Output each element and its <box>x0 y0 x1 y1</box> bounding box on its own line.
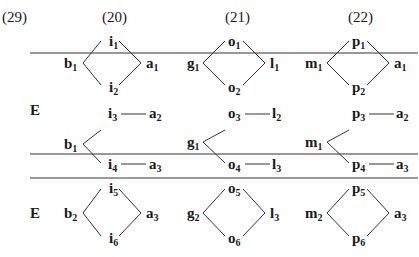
node-i2: i2 <box>109 80 118 97</box>
node-i1: i1 <box>109 34 118 51</box>
node-p6: p6 <box>352 231 365 248</box>
node-a2: a2 <box>149 106 162 123</box>
node-b2: b2 <box>64 206 77 223</box>
node-i5: i5 <box>109 181 118 198</box>
node-g1-mid: g1 <box>187 135 200 152</box>
node-a1-c3: a1 <box>394 56 407 73</box>
node-o6: o6 <box>228 231 241 248</box>
node-o3: o3 <box>228 106 241 123</box>
node-g1: g1 <box>187 56 200 73</box>
node-m2: m2 <box>305 206 323 223</box>
node-a3-c3-bot: a3 <box>394 206 407 223</box>
node-p5: p5 <box>352 181 365 198</box>
node-b1: b1 <box>64 56 77 73</box>
node-m1-mid: m1 <box>305 135 323 152</box>
column-header-22: (22) <box>348 10 373 25</box>
column-header-21: (21) <box>225 10 250 25</box>
node-l1: l1 <box>270 56 279 73</box>
node-a3-bot: a3 <box>146 206 159 223</box>
node-a1: a1 <box>146 56 159 73</box>
node-p1: p1 <box>352 34 365 51</box>
node-m1: m1 <box>305 56 323 73</box>
node-i4: i4 <box>108 157 117 174</box>
node-l3-mid: l3 <box>272 157 281 174</box>
node-a3-mid: a3 <box>149 157 162 174</box>
row-label-bottom: E <box>30 206 40 221</box>
example-number: (29) <box>2 10 27 25</box>
node-i6: i6 <box>109 231 118 248</box>
node-o5: o5 <box>228 181 241 198</box>
node-l3-bot: l3 <box>270 206 279 223</box>
node-p4: p4 <box>352 157 365 174</box>
node-o1: o1 <box>228 34 241 51</box>
node-p3: p3 <box>352 106 365 123</box>
node-g2: g2 <box>187 206 200 223</box>
node-l2: l2 <box>272 106 281 123</box>
row-label-middle: E <box>30 103 40 118</box>
node-o2: o2 <box>228 80 241 97</box>
node-i3: i3 <box>108 106 117 123</box>
node-a3-c3-mid: a3 <box>396 157 409 174</box>
node-b1-mid: b1 <box>64 137 77 154</box>
column-header-20: (20) <box>102 10 127 25</box>
node-p2: p2 <box>352 80 365 97</box>
node-o4: o4 <box>228 157 241 174</box>
node-a2-c3: a2 <box>396 106 409 123</box>
